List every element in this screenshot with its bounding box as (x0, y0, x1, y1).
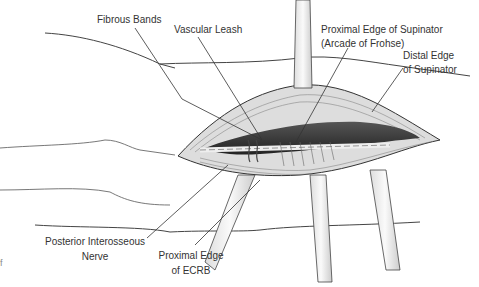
label-posterior-interosseous-nerve: Posterior Interosseous Nerve (40, 236, 150, 263)
label-ecrb-line2: of ECRB (152, 265, 230, 277)
label-proximal-ecrb: Proximal Edge of ECRB (152, 250, 230, 277)
label-proximal-supinator: Proximal Edge of Supinator (321, 24, 443, 36)
label-edge-fragment: f (0, 257, 3, 269)
label-distal-supinator-line2: of Supinator (403, 64, 457, 76)
label-vascular-leash: Vascular Leash (174, 24, 242, 36)
label-distal-supinator-line1: Distal Edge (403, 50, 454, 62)
label-pin-line2: Nerve (40, 251, 150, 263)
label-ecrb-line1: Proximal Edge (152, 250, 230, 262)
label-arcade-of-frohse: (Arcade of Frohse) (321, 38, 404, 50)
label-pin-line1: Posterior Interosseous (40, 236, 150, 248)
label-fibrous-bands: Fibrous Bands (97, 14, 161, 26)
surgical-illustration: Fibrous Bands Vascular Leash Proximal Ed… (0, 0, 479, 287)
